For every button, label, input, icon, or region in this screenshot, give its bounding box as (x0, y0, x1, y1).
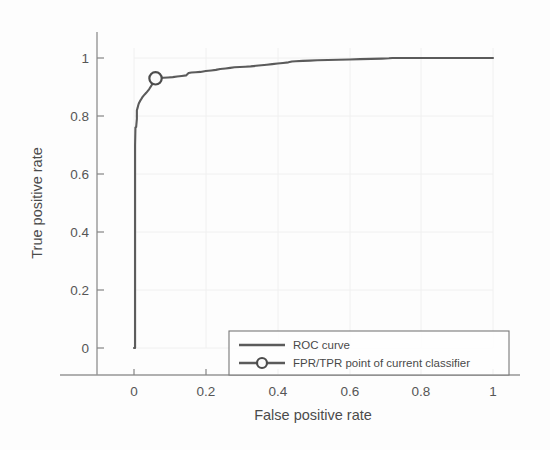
y-tick-label-0: 0 (81, 341, 89, 356)
roc-figure: 1 0.8 0.6 0.4 0.2 0 0 0.2 0.4 0.6 0.8 1 … (0, 0, 550, 450)
y-axis-title: True positive rate (29, 147, 45, 258)
x-tick-label-0: 0 (130, 384, 138, 399)
x-tick-label-1: 1 (489, 384, 497, 399)
legend: ROC curve FPR/TPR point of current class… (229, 331, 509, 375)
y-tick-label-1: 1 (81, 51, 89, 66)
y-tick-label-0.6: 0.6 (70, 167, 89, 182)
y-tick-label-0.4: 0.4 (70, 225, 89, 240)
x-tick-label-0.8: 0.8 (412, 384, 431, 399)
y-tick-label-0.2: 0.2 (70, 283, 89, 298)
x-axis-title: False positive rate (254, 407, 372, 423)
x-tick-label-0.2: 0.2 (197, 384, 216, 399)
legend-label-roc-curve: ROC curve (293, 339, 350, 351)
fpr-tpr-point-marker (149, 72, 161, 84)
legend-circle-marker-icon (257, 358, 267, 368)
x-tick-label-0.6: 0.6 (341, 384, 360, 399)
roc-chart-screenshot: 1 0.8 0.6 0.4 0.2 0 0 0.2 0.4 0.6 0.8 1 … (0, 0, 550, 450)
y-tick-label-0.8: 0.8 (70, 109, 89, 124)
x-tick-label-0.4: 0.4 (269, 384, 288, 399)
legend-label-fpr-tpr-point: FPR/TPR point of current classifier (293, 357, 470, 369)
